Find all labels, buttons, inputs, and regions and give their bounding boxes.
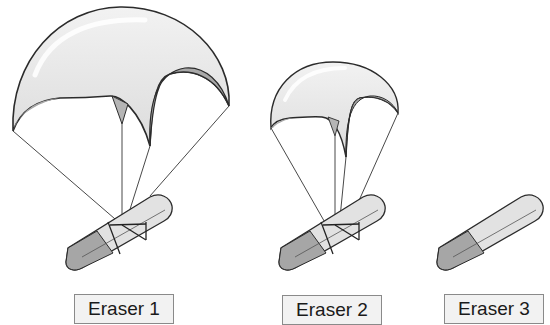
eraser-3-group xyxy=(437,195,543,270)
eraser-3-label: Eraser 3 xyxy=(444,294,544,324)
eraser-2-body-icon xyxy=(279,195,385,270)
eraser-1-group xyxy=(13,7,229,270)
eraser-1-label: Eraser 1 xyxy=(74,294,174,324)
eraser-2-group xyxy=(271,62,398,270)
eraser-2-label: Eraser 2 xyxy=(282,295,382,325)
large-parachute-icon xyxy=(13,7,229,225)
eraser-1-body-icon xyxy=(66,195,172,270)
eraser-3-body-icon xyxy=(437,195,543,270)
